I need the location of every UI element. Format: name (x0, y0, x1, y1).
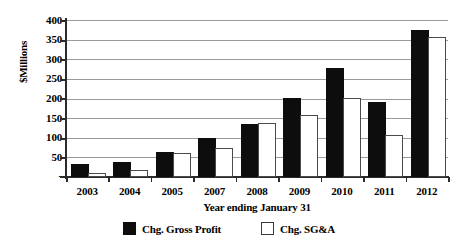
legend-label-gross-profit: Chg. Gross Profit (142, 223, 221, 235)
bar-sga-2010 (343, 98, 361, 177)
bar-group-2012 (406, 20, 448, 177)
bar-group-2003 (66, 20, 108, 177)
x-tick-label-2011: 2011 (362, 185, 406, 197)
x-tick-mark-5 (278, 177, 280, 182)
bar-sga-2008 (258, 123, 276, 177)
bar-sga-2011 (385, 135, 403, 177)
x-tick-mark-6 (321, 177, 323, 182)
bar-gross-profit-2012 (411, 30, 429, 177)
bar-gross-profit-2005 (156, 152, 174, 177)
x-tick-mark-3 (193, 177, 195, 182)
bars-layer (66, 20, 448, 177)
x-tick-label-2009: 2009 (277, 185, 321, 197)
bar-gross-profit-2008 (241, 124, 259, 177)
bar-group-2005 (151, 20, 193, 177)
x-tick-mark-9 (448, 177, 450, 182)
outlined-square-icon (261, 222, 274, 235)
x-tick-label-2003: 2003 (65, 185, 109, 197)
bar-group-2010 (321, 20, 363, 177)
y-axis-tick-marks (0, 0, 70, 246)
bar-chart: $Millions 400 350 300 250 200 150 100 50… (0, 0, 458, 246)
x-tick-label-2010: 2010 (320, 185, 364, 197)
bar-group-2011 (363, 20, 405, 177)
x-tick-mark-8 (406, 177, 408, 182)
bar-group-2008 (236, 20, 278, 177)
bar-gross-profit-2009 (283, 98, 301, 177)
bar-gross-profit-2004 (113, 162, 131, 177)
bar-group-2007 (193, 20, 235, 177)
x-axis-title: Year ending January 31 (66, 201, 448, 213)
x-tick-mark-2 (151, 177, 153, 182)
bar-sga-2012 (428, 37, 446, 177)
x-tick-mark-7 (363, 177, 365, 182)
bar-sga-2004 (130, 170, 148, 177)
bar-gross-profit-2011 (368, 102, 386, 177)
bar-sga-2005 (173, 153, 191, 177)
legend-label-sga: Chg. SG&A (280, 223, 335, 235)
bar-gross-profit-2003 (71, 164, 89, 177)
bar-gross-profit-2007 (198, 138, 216, 177)
legend-entry-sga: Chg. SG&A (261, 222, 335, 235)
legend-entry-gross-profit: Chg. Gross Profit (123, 222, 221, 235)
x-tick-label-2007: 2007 (193, 185, 237, 197)
x-tick-label-2008: 2008 (235, 185, 279, 197)
bar-sga-2009 (300, 115, 318, 177)
x-tick-label-2012: 2012 (405, 185, 449, 197)
bar-group-2009 (278, 20, 320, 177)
chart-legend: Chg. Gross Profit Chg. SG&A (0, 222, 458, 235)
bar-sga-2003 (88, 173, 106, 177)
x-tick-label-2004: 2004 (108, 185, 152, 197)
bar-group-2004 (108, 20, 150, 177)
x-tick-label-2005: 2005 (150, 185, 194, 197)
x-tick-mark-0 (66, 177, 68, 182)
bar-gross-profit-2010 (326, 68, 344, 177)
x-tick-mark-4 (236, 177, 238, 182)
bar-sga-2007 (215, 148, 233, 177)
x-tick-mark-1 (108, 177, 110, 182)
filled-square-icon (123, 222, 136, 235)
